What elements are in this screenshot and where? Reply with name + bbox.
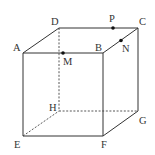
point-N	[119, 39, 123, 43]
label-B: B	[95, 42, 102, 53]
point-M	[61, 51, 65, 55]
label-H: H	[49, 102, 57, 113]
label-E: E	[14, 139, 20, 150]
label-D: D	[51, 16, 59, 27]
edge-AD	[23, 28, 59, 53]
label-C: C	[139, 16, 146, 27]
edge-EH-hidden	[23, 111, 59, 136]
label-G: G	[139, 115, 147, 126]
cube-diagram: A D C B H G E F P N M	[0, 0, 155, 155]
label-N: N	[122, 43, 130, 54]
label-A: A	[13, 42, 21, 53]
edge-FG	[103, 111, 138, 136]
label-P: P	[109, 13, 115, 24]
label-F: F	[101, 139, 107, 150]
label-M: M	[63, 56, 73, 67]
point-P	[111, 26, 115, 30]
